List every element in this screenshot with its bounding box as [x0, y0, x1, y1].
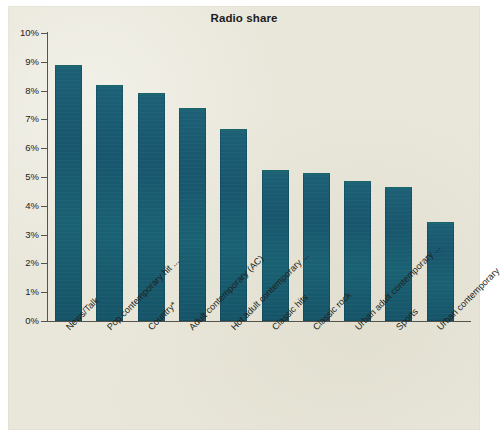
- x-axis-labels: News/TalkPop contemporary hit ...Country…: [47, 325, 472, 425]
- y-axis-tick: [41, 263, 47, 264]
- bar[interactable]: [96, 85, 123, 321]
- y-axis-tick-label: 6%: [9, 142, 39, 153]
- y-axis-tick-label: 8%: [9, 85, 39, 96]
- y-axis-tick-label: 2%: [9, 257, 39, 268]
- y-axis-tick-label: 3%: [9, 229, 39, 240]
- y-axis-tick-label-wrap: 5%: [8, 177, 39, 178]
- bar[interactable]: [55, 65, 82, 321]
- chart-figure: Radio share News/TalkPop contemporary hi…: [8, 6, 480, 430]
- bar-top-highlight: [96, 85, 123, 87]
- chart-title: Radio share: [8, 12, 480, 24]
- y-axis-tick-label-wrap: 6%: [8, 148, 39, 149]
- bar-top-highlight: [138, 93, 165, 95]
- y-axis-tick-label: 7%: [9, 113, 39, 124]
- y-axis-tick: [41, 292, 47, 293]
- bar-top-highlight: [427, 222, 454, 224]
- y-axis-tick: [41, 33, 47, 34]
- y-axis-tick-label-wrap: 3%: [8, 235, 39, 236]
- y-axis-tick: [41, 235, 47, 236]
- y-axis-tick-label: 0%: [9, 315, 39, 326]
- bar-top-highlight: [55, 65, 82, 67]
- y-axis-tick-label-wrap: 8%: [8, 91, 39, 92]
- y-axis-tick-label: 10%: [9, 27, 39, 38]
- y-axis-tick: [41, 177, 47, 178]
- y-axis-tick-label-wrap: 4%: [8, 206, 39, 207]
- bar-top-highlight: [303, 173, 330, 175]
- y-axis-tick-label-wrap: 10%: [8, 33, 39, 34]
- y-axis-tick: [41, 62, 47, 63]
- y-axis-tick: [41, 321, 47, 322]
- y-axis-tick-label-wrap: 2%: [8, 263, 39, 264]
- y-axis-tick: [41, 206, 47, 207]
- y-axis-tick-label-wrap: 7%: [8, 119, 39, 120]
- y-axis-tick-label: 4%: [9, 200, 39, 211]
- bar-top-highlight: [262, 170, 289, 172]
- bar-top-highlight: [179, 108, 206, 110]
- y-axis-tick: [41, 119, 47, 120]
- y-axis-tick-label: 9%: [9, 56, 39, 67]
- bar-top-highlight: [220, 129, 247, 131]
- y-axis-tick: [41, 148, 47, 149]
- y-axis-tick-label: 1%: [9, 286, 39, 297]
- bar-top-highlight: [344, 181, 371, 183]
- bar[interactable]: [427, 222, 454, 321]
- y-axis-tick-label-wrap: 9%: [8, 62, 39, 63]
- bar-top-highlight: [385, 187, 412, 189]
- y-axis-tick-label-wrap: 0%: [8, 321, 39, 322]
- bar[interactable]: [179, 108, 206, 321]
- y-axis-tick: [41, 91, 47, 92]
- y-axis-tick-label: 5%: [9, 171, 39, 182]
- y-axis-tick-label-wrap: 1%: [8, 292, 39, 293]
